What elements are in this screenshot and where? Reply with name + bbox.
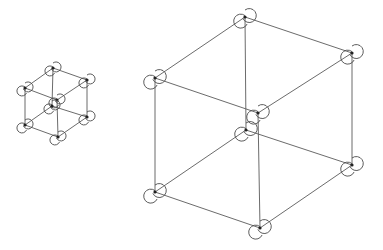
cube-edge — [25, 68, 53, 88]
large-cube — [144, 9, 364, 240]
vertex-dot — [85, 115, 88, 118]
cube-edge — [58, 117, 87, 137]
vertex-dot — [243, 15, 246, 18]
vertex-dot — [350, 51, 353, 54]
diagram-canvas — [0, 0, 383, 250]
cube-edge — [155, 130, 246, 192]
cube-edge — [155, 192, 260, 228]
cube-edge — [246, 130, 352, 165]
cube-edge — [258, 113, 260, 228]
vertex-dot — [85, 78, 88, 81]
vertex-dot — [256, 111, 259, 114]
vertex-dot — [51, 66, 54, 69]
cube-edge — [258, 53, 352, 113]
cube-edge — [25, 106, 52, 125]
vertex-dot — [56, 135, 59, 138]
vertex-dot — [350, 163, 353, 166]
cube-edge — [260, 165, 352, 228]
cube-edge — [57, 80, 87, 100]
cube-edge — [245, 17, 246, 130]
vertex-dot — [153, 190, 156, 193]
small-cube — [17, 62, 95, 145]
cube-edge — [155, 78, 258, 113]
vertex-dot — [23, 123, 26, 126]
vertex-dot — [244, 128, 247, 131]
cube-edge — [245, 17, 352, 53]
vertex-dot — [258, 226, 261, 229]
cube-edge — [155, 17, 245, 78]
vertex-dot — [23, 86, 26, 89]
vertex-dot — [153, 76, 156, 79]
vertex-dot — [50, 104, 53, 107]
